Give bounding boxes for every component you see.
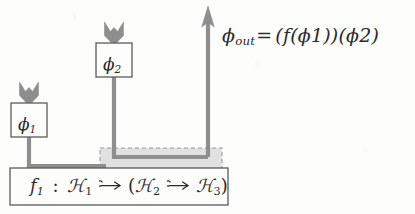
middle-symbol: ℋ <box>135 175 153 196</box>
phi1-label: ϕ1 <box>18 116 36 134</box>
close-paren: ) <box>221 175 228 196</box>
middle-sub: 2 <box>153 185 160 198</box>
phi2-output-wire <box>114 74 208 157</box>
open-paren: ( <box>128 175 135 196</box>
codomain-symbol: ℋ <box>196 175 214 196</box>
partial-function-arrow-icon-1 <box>99 179 121 193</box>
domain-sub: 1 <box>85 185 92 198</box>
output-equation: ϕout=(f(ϕ1))(ϕ2) <box>222 26 379 48</box>
output-equation-rhs: (f(ϕ1))(ϕ2) <box>275 24 379 46</box>
f1-name: f <box>30 175 37 196</box>
f1-name-sub: 1 <box>37 185 44 198</box>
signature-colon: : <box>53 175 59 196</box>
codomain-sub: 3 <box>214 185 221 198</box>
diagram-canvas: ϕ1 ϕ2 ϕout=(f(ϕ1))(ϕ2) f1 : ℋ1 (ℋ2 ℋ3) <box>0 0 415 214</box>
partial-function-arrow-icon-2 <box>167 179 189 193</box>
domain-symbol: ℋ <box>67 175 85 196</box>
phi2-label: ϕ2 <box>103 56 121 74</box>
f1-signature-text: f1 : ℋ1 (ℋ2 ℋ3) <box>30 177 228 197</box>
phi1-output-wire <box>29 134 106 166</box>
